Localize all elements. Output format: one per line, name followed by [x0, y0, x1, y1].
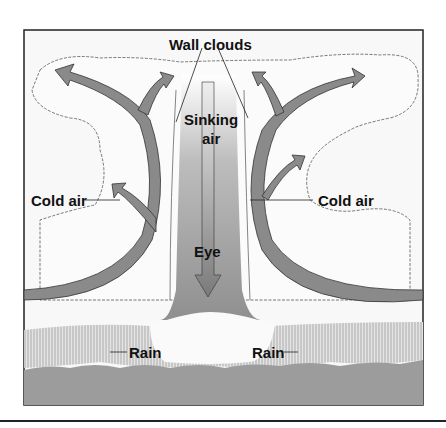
- label-cold-air-left: Cold air: [31, 192, 87, 209]
- label-eye: Eye: [194, 243, 221, 260]
- label-air: air: [202, 130, 221, 147]
- bottom-rule: [0, 420, 446, 422]
- hurricane-diagram: Wall clouds Sinking air Cold air Cold ai…: [0, 0, 446, 428]
- label-wall-clouds: Wall clouds: [169, 36, 252, 53]
- label-rain-right: Rain: [252, 344, 285, 361]
- label-rain-left: Rain: [129, 344, 162, 361]
- label-sinking: Sinking: [184, 111, 238, 128]
- label-cold-air-right: Cold air: [318, 192, 374, 209]
